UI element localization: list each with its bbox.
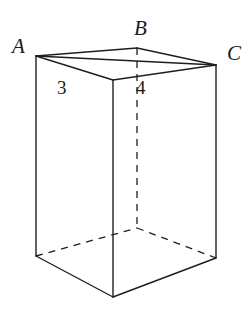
edge-A-to-B xyxy=(36,48,137,56)
edge-bottom-front-to-right xyxy=(113,258,216,297)
prism-drawing xyxy=(0,0,251,313)
hidden-edge-bottom-left-to-back xyxy=(36,228,137,256)
top-face-edges xyxy=(36,48,216,80)
edge-A-to-C-diagonal xyxy=(36,56,216,65)
vertex-label-b: B xyxy=(134,18,147,39)
geometry-figure: A B C 3 4 xyxy=(0,0,251,313)
edge-front-corner-to-C xyxy=(113,65,216,80)
vertex-label-c: C xyxy=(227,43,241,64)
edge-bottom-left-to-front xyxy=(36,256,113,297)
vertex-label-a: A xyxy=(12,36,25,57)
hidden-edge-bottom-back-to-right xyxy=(137,228,216,258)
bottom-face-visible-edges xyxy=(36,256,216,297)
edge-length-label-ab: 3 xyxy=(57,78,67,97)
edge-length-label-bc: 4 xyxy=(136,78,146,97)
